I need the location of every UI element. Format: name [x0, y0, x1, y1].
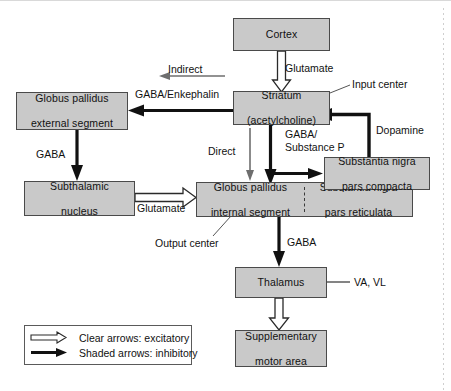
node-gpe-label: Globus pallidus external segment [17, 92, 127, 130]
label-gaba-substance-p-line1: GABA/ [285, 128, 317, 141]
node-supplementary-motor-area[interactable]: Supplementary motor area [235, 330, 327, 367]
node-gpe-line1: Globus pallidus [17, 92, 127, 105]
node-snc-line1: Substantia nigra [325, 155, 429, 168]
node-gpi-label: Globus pallidus internal segment [197, 181, 304, 219]
leader-output-center [213, 216, 231, 236]
edge-gpi-to-thalamus [273, 216, 285, 267]
node-cortex-label: Cortex [234, 28, 329, 41]
node-sma-line2: motor area [236, 355, 326, 368]
node-sma-line1: Supplementary [236, 330, 326, 343]
label-glutamate-cortex: Glutamate [285, 62, 333, 75]
legend-row-inhibitory: Shaded arrows: inhibitory [25, 345, 191, 360]
edge-thalamus-to-sma [270, 298, 289, 330]
node-stn-line2: nucleus [25, 205, 134, 218]
node-stn-line1: Subthalamic [25, 180, 134, 193]
annotation-input-center: Input center [352, 78, 407, 91]
label-va-vl: VA, VL [354, 276, 386, 289]
clear-arrow-icon [30, 331, 74, 344]
node-striatum-label: Striatum (acetylcholine) [234, 89, 329, 127]
diagram-canvas: Cortex Striatum (acetylcholine) Globus p… [0, 0, 451, 391]
edge-striatum-to-gpi-direct [265, 125, 277, 185]
legend-label-excitatory: Clear arrows: excitatory [79, 332, 189, 344]
label-gaba-enkephalin: GABA/Enkephalin [135, 88, 219, 101]
node-stn-label: Subthalamic nucleus [25, 180, 134, 218]
node-globus-pallidus-external[interactable]: Globus pallidus external segment [16, 92, 128, 130]
node-striatum-line2: (acetylcholine) [234, 114, 329, 127]
node-thalamus[interactable]: Thalamus [235, 267, 327, 298]
shaded-arrow-icon [30, 346, 74, 359]
label-dopamine: Dopamine [376, 124, 424, 137]
edge-striatum-to-snc [271, 168, 324, 179]
node-subthalamic-nucleus[interactable]: Subthalamic nucleus [24, 181, 135, 216]
node-substantia-nigra-compacta[interactable]: Substantia nigra pars compacta [324, 157, 430, 190]
node-striatum[interactable]: Striatum (acetylcholine) [233, 91, 330, 125]
label-direct-pathway: Direct [208, 145, 235, 158]
node-snc-label: Substantia nigra pars compacta [325, 155, 429, 193]
label-gaba-gpe-to-stn: GABA [36, 148, 65, 161]
node-snr-line2: pars reticulata [305, 206, 412, 219]
node-sma-label: Supplementary motor area [236, 330, 326, 368]
node-gpi-line1: Globus pallidus [197, 181, 304, 194]
edge-gpe-to-stn [71, 130, 83, 181]
leader-input-center [330, 85, 350, 93]
legend-label-inhibitory: Shaded arrows: inhibitory [79, 347, 197, 359]
node-striatum-line1: Striatum [234, 89, 329, 102]
node-snc-line2: pars compacta [325, 180, 429, 193]
legend-row-excitatory: Clear arrows: excitatory [25, 330, 191, 345]
label-gaba-gpi-to-thalamus: GABA [287, 236, 316, 249]
edge-striatum-to-gpe [128, 105, 233, 117]
node-globus-pallidus-internal[interactable]: Globus pallidus internal segment [197, 183, 304, 216]
node-thalamus-label: Thalamus [236, 276, 326, 289]
node-gpe-line2: external segment [17, 117, 127, 130]
edge-direct-thin-arrow [246, 128, 254, 181]
node-gpi-line2: internal segment [197, 206, 304, 219]
node-cortex[interactable]: Cortex [233, 18, 330, 51]
annotation-output-center: Output center [155, 237, 219, 250]
label-indirect-pathway: Indirect [168, 63, 202, 76]
label-gaba-substance-p-line2: Substance P [285, 141, 345, 154]
label-glutamate-stn: Glutamate [137, 202, 185, 215]
legend-box: Clear arrows: excitatory Shaded arrows: … [24, 325, 192, 365]
